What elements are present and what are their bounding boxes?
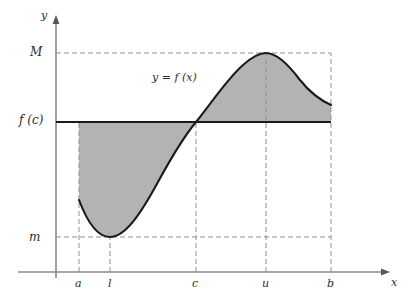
x-tick-l: l (108, 278, 112, 289)
x-tick-c: c (192, 278, 198, 289)
y-axis-arrow-icon (53, 15, 60, 24)
x-axis-label: x (391, 277, 397, 288)
label-mean-value: f (c) (19, 114, 43, 126)
x-tick-u: u (262, 278, 269, 289)
x-tick-b: b (327, 278, 334, 289)
label-maximum-value: M (30, 46, 42, 58)
function-label: y = f (x) (152, 72, 197, 83)
y-axis-label: y (41, 10, 47, 21)
label-minimum-value: m (29, 231, 40, 243)
function-diagram (0, 0, 411, 301)
x-tick-a: a (75, 278, 82, 289)
shaded-region-above (196, 53, 331, 122)
x-axis-arrow-icon (381, 269, 390, 276)
shaded-region-below (79, 122, 196, 237)
